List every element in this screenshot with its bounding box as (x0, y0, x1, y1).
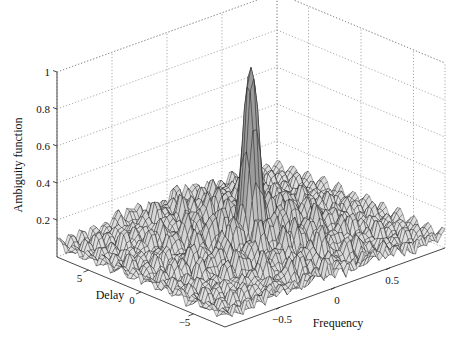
grid-line-z (277, 0, 445, 63)
z-tick-label: 0.6 (36, 140, 50, 152)
delay-tick (84, 270, 89, 272)
z-tick (53, 182, 57, 184)
grid-line-z (57, 0, 277, 72)
frequency-axis-label: Frequency (313, 316, 364, 330)
frequency-tick-label: 0.5 (385, 274, 399, 286)
z-tick (53, 219, 57, 221)
grid-line-z (57, 0, 277, 72)
z-tick-label: 0.8 (36, 103, 50, 115)
frequency-tick-label: 0 (334, 294, 340, 306)
z-tick-label: 0.4 (36, 177, 50, 189)
z-tick (53, 145, 57, 147)
delay-tick (136, 292, 141, 294)
frequency-tick-label: −0.5 (272, 313, 292, 325)
delay-axis-label: Delay (96, 288, 125, 302)
ambiguity-surface-chart: Ambiguity function Delay Frequency 0.20.… (0, 0, 456, 350)
delay-tick-label: 0 (129, 294, 135, 306)
z-tick-label: 1 (45, 66, 51, 78)
delay-tick-label: −5 (179, 316, 191, 328)
z-axis-label: Ambiguity function (11, 118, 25, 213)
z-tick-label: 0.2 (36, 214, 50, 226)
grid-line-z (277, 0, 445, 63)
delay-tick-label: 5 (77, 272, 83, 284)
z-tick (53, 108, 57, 110)
z-tick (53, 71, 57, 73)
